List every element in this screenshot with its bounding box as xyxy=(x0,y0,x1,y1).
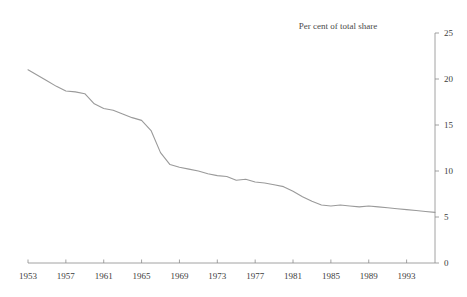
y-tick-label: 10 xyxy=(444,166,454,176)
x-tick-label: 1977 xyxy=(246,271,265,281)
x-tick-label: 1961 xyxy=(95,271,113,281)
chart-container: Per cent of total share 1953195719611965… xyxy=(0,0,467,297)
x-tick-label: 1993 xyxy=(398,271,417,281)
x-tick-label: 1981 xyxy=(284,271,302,281)
y-tick-label: 0 xyxy=(444,258,449,268)
x-tick-label: 1953 xyxy=(19,271,38,281)
x-tick-label: 1957 xyxy=(57,271,76,281)
axes-group xyxy=(28,33,435,263)
x-tick-label: 1965 xyxy=(133,271,152,281)
y-axis-ticks-group: 0510152025 xyxy=(435,28,454,268)
line-chart: Per cent of total share 1953195719611965… xyxy=(0,0,467,297)
x-tick-label: 1969 xyxy=(170,271,189,281)
x-tick-label: 1973 xyxy=(208,271,227,281)
y-tick-label: 20 xyxy=(444,74,454,84)
y-tick-label: 25 xyxy=(444,28,454,38)
chart-title: Per cent of total share xyxy=(299,21,377,31)
x-tick-label: 1989 xyxy=(360,271,379,281)
chart-title-group: Per cent of total share xyxy=(299,21,377,31)
y-tick-label: 5 xyxy=(444,212,449,222)
y-tick-label: 15 xyxy=(444,120,454,130)
data-series-group xyxy=(28,70,435,213)
series-line-per-cent-of-total-share xyxy=(28,70,435,213)
x-tick-label: 1985 xyxy=(322,271,341,281)
